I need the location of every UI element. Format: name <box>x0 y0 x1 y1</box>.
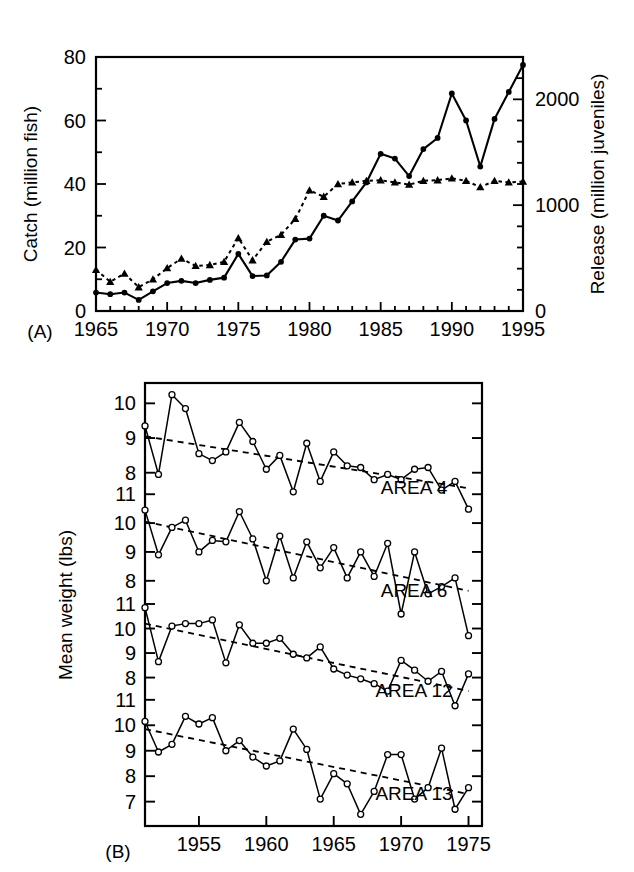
panel-a-catch-marker <box>378 151 384 157</box>
panel-b-data-marker <box>344 463 350 469</box>
panel-b-data-marker <box>466 785 472 791</box>
panel-b-data-marker <box>331 771 337 777</box>
panel-b-x-tick-label: 1960 <box>244 833 289 855</box>
panel-b-data-marker <box>250 754 256 760</box>
panel-b-y-tick-label: 9 <box>125 541 136 563</box>
panel-b-data-marker <box>155 552 161 558</box>
panel-b-series-label-area-13: AREA 13 <box>375 783 452 804</box>
panel-b-data-marker <box>223 539 229 545</box>
panel-b-y-tick-label: 7 <box>125 791 136 813</box>
panel-b-data-marker <box>250 439 256 445</box>
panel-a-x-tick-label: 1975 <box>216 318 261 340</box>
panel-b-data-marker <box>452 478 458 484</box>
panel-a-catch-marker <box>264 273 270 279</box>
panel-a-y-tick-label-right: 1000 <box>535 194 580 216</box>
panel-a-x-tick-label: 1990 <box>430 318 475 340</box>
panel-a-catch-marker <box>392 156 398 162</box>
panel-a-x-tick-label: 1980 <box>287 318 332 340</box>
panel-b-data-marker <box>155 749 161 755</box>
panel-a-catch-marker <box>321 213 327 219</box>
panel-a-catch-marker <box>107 291 113 297</box>
panel-b-data-marker <box>209 715 215 721</box>
panel-b-data-marker <box>439 668 445 674</box>
panel-a-catch-marker <box>93 290 99 296</box>
panel-b-x-tick-label: 1975 <box>446 833 491 855</box>
panel-a-catch-marker <box>164 280 170 286</box>
panel-b-data-marker <box>236 509 242 515</box>
panel-b-x-tick-label: 1955 <box>177 833 222 855</box>
panel-b-data-marker <box>263 578 269 584</box>
panel-b-series-label-area-12: AREA 12 <box>375 680 452 701</box>
panel-a-catch-marker <box>477 164 483 170</box>
panel-a-y-tick-label-right: 2000 <box>535 88 580 110</box>
panel-b-x-tick-label: 1965 <box>311 833 356 855</box>
panel-b-data-marker <box>277 635 283 641</box>
panel-b-data-marker <box>344 672 350 678</box>
panel-b-data-marker <box>223 748 229 754</box>
panel-b-data-marker <box>304 440 310 446</box>
panel-b-data-marker <box>398 611 404 617</box>
panel-b-data-marker <box>412 549 418 555</box>
panel-b-data-marker <box>290 489 296 495</box>
panel-b-data-marker <box>277 758 283 764</box>
panel-b-data-marker <box>358 465 364 471</box>
panel-b-data-marker <box>385 540 391 546</box>
panel-a-x-tick-label: 1985 <box>358 318 403 340</box>
panel-b-data-marker <box>412 466 418 472</box>
panel-a-catch-marker <box>235 251 241 257</box>
panel-b-data-marker <box>209 458 215 464</box>
panel-b-data-marker <box>155 471 161 477</box>
panel-b-data-marker <box>236 622 242 628</box>
panel-a-catch-marker <box>150 288 156 294</box>
panel-a-y-tick-label-right: 0 <box>535 300 546 322</box>
panel-a-catch-marker <box>449 91 455 97</box>
panel-b-data-marker <box>452 703 458 709</box>
panel-a-catch-marker <box>463 118 469 124</box>
panel-b-data-marker <box>142 423 148 429</box>
panel-b-data-marker <box>317 644 323 650</box>
panel-a-ylabel-left: Catch (million fish) <box>20 106 41 262</box>
panel-b-y-tick-label: 9 <box>125 642 136 664</box>
panel-b-data-marker <box>304 539 310 545</box>
panel-b-data-marker <box>466 506 472 512</box>
panel-b-y-tick-label: 8 <box>125 765 136 787</box>
panel-b-data-marker <box>358 549 364 555</box>
panel-a-catch-marker <box>221 275 227 281</box>
panel-a-catch-marker <box>492 116 498 122</box>
panel-b-data-marker <box>263 763 269 769</box>
panel-a-x-tick-label: 1970 <box>145 318 190 340</box>
panel-a-catch-marker <box>520 62 526 68</box>
panel-b-data-marker <box>344 781 350 787</box>
panel-b-data-marker <box>209 537 215 543</box>
panel-b-y-tick-label: 9 <box>125 740 136 762</box>
panel-b-ylabel: Mean weight (lbs) <box>55 530 76 680</box>
panel-b-data-marker <box>196 451 202 457</box>
panel-b-data-marker <box>358 676 364 682</box>
panel-a-catch-marker <box>349 199 355 205</box>
panel-b-data-marker <box>398 657 404 663</box>
panel-b-data-marker <box>317 565 323 571</box>
panel-b-data-marker <box>317 478 323 484</box>
panel-b-data-marker <box>236 738 242 744</box>
panel-b-y-tick-label: 9 <box>125 427 136 449</box>
panel-b-y-tick-label: 10 <box>114 714 136 736</box>
panel-b-data-marker <box>304 655 310 661</box>
panel-b-data-marker <box>331 449 337 455</box>
panel-a-catch-marker <box>292 237 298 243</box>
panel-a-catch-marker <box>122 290 128 296</box>
panel-b-data-marker <box>317 796 323 802</box>
panel-b-data-marker <box>169 392 175 398</box>
panel-b-data-marker <box>290 575 296 581</box>
panel-b-data-marker <box>196 549 202 555</box>
panel-a-catch-marker <box>307 236 313 242</box>
panel-a-catch-marker <box>193 280 199 286</box>
panel-b-data-marker <box>263 640 269 646</box>
panel-a-catch-marker <box>335 218 341 224</box>
panel-b-data-marker <box>169 524 175 530</box>
panel-b-y-tick-label: 8 <box>125 462 136 484</box>
panel-b-data-marker <box>331 666 337 672</box>
panel-a-catch-marker <box>250 273 256 279</box>
panel-b-data-marker <box>452 575 458 581</box>
panel-b-y-tick-label: 11 <box>115 689 136 711</box>
panel-a-catch-marker <box>278 259 284 265</box>
